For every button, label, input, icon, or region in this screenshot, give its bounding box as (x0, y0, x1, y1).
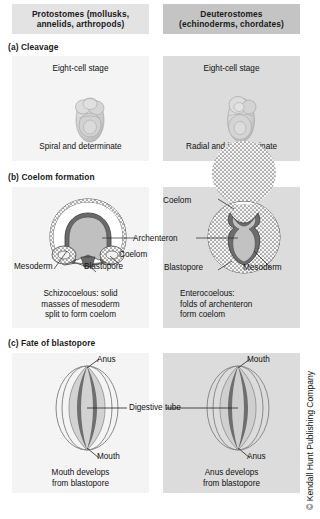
section-caption-cleavage: (a) Cleavage (8, 42, 59, 52)
coelom-right-text-line3: form coelom (180, 310, 300, 321)
label-archenteron: Archenteron (133, 234, 178, 244)
blastopore-left-text-line1: Mouth develops (12, 468, 149, 479)
label-left-mouth-bottom: Mouth (97, 452, 120, 462)
protostome-gut-diagram (47, 362, 127, 454)
label-digestive-tube: Digestive tube (129, 403, 181, 413)
label-left-anus-top: Anus (97, 355, 116, 365)
coelom-left-text-line1: Schizocoelous: solid (12, 289, 149, 300)
copyright-text: © Kendall Hunt Publishing Company (301, 270, 319, 510)
blastopore-right-text-line2: from blastopore (163, 479, 300, 490)
column-header-protostomes: Protostomes (mollusks, annelids, arthrop… (12, 4, 149, 34)
label-left-coelom: Coelom (119, 250, 147, 260)
column-header-deuterostomes-line1: Deuterostomes (179, 9, 284, 20)
cleavage-left-top-label: Eight-cell stage (12, 64, 149, 75)
blastopore-right-text-line1: Anus develops (163, 468, 300, 479)
deuterostome-gut-diagram (198, 362, 278, 454)
copyright-notice: © Kendall Hunt Publishing Company (301, 270, 319, 510)
cleavage-right-top-label: Eight-cell stage (163, 64, 300, 75)
cleavage-left-bottom-text: Spiral and determinate (12, 142, 149, 153)
label-right-coelom: Coelom (163, 196, 191, 206)
coelom-left-text-line3: split to form coelom (12, 310, 149, 321)
label-left-mesoderm: Mesoderm (14, 262, 53, 272)
label-left-blastopore: Blastopore (84, 262, 123, 272)
section-caption-coelom: (b) Coelom formation (8, 172, 95, 182)
column-header-protostomes-line2: annelids, arthropods) (32, 19, 129, 30)
column-header-protostomes-line1: Protostomes (mollusks, (32, 9, 129, 20)
label-right-anus-bottom: Anus (247, 452, 266, 462)
label-right-blastopore: Blastopore (164, 263, 203, 273)
label-right-mesoderm: Mesoderm (243, 263, 282, 273)
column-header-deuterostomes-line2: (echinoderms, chordates) (179, 19, 284, 30)
label-right-mouth-top: Mouth (247, 355, 270, 365)
column-header-deuterostomes: Deuterostomes (echinoderms, chordates) (163, 4, 300, 34)
coelom-right-text-line1: Enterocoelous: (180, 289, 300, 300)
comparison-figure: Protostomes (mollusks, annelids, arthrop… (0, 0, 320, 519)
section-caption-blastopore: (c) Fate of blastopore (8, 338, 95, 348)
blastopore-left-text-line2: from blastopore (12, 479, 149, 490)
coelom-left-text-line2: masses of mesoderm (12, 300, 149, 311)
coelom-right-text-line2: folds of archenteron (180, 300, 300, 311)
